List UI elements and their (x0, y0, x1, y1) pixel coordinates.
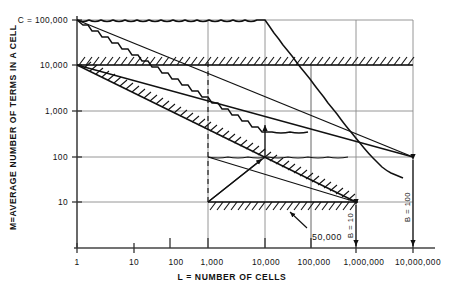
hatched-bound-diagonal (77, 62, 356, 202)
xtick-label-1: 1 (74, 257, 79, 267)
hatched-bound-10000 (77, 57, 414, 65)
xtick-label-1000: 1,000 (201, 257, 224, 267)
grid-vertical (208, 20, 413, 248)
x-axis-title: L = NUMBER OF CELLS (178, 272, 287, 282)
chart-figure: C = 100,000 10,000 1,000 100 10 1 10 100… (0, 0, 455, 287)
xtick-label-100000: 100,000 (297, 257, 330, 267)
plot-arrows (208, 125, 265, 202)
ytick-label-100: 100 (53, 152, 68, 162)
xtick-label-1000000: 1,000,000 (344, 257, 385, 267)
y-axis-title: M=AVERAGE NUMBER OF TERMS IN A CELL (8, 24, 18, 230)
hatched-floor-10 (208, 202, 358, 210)
chart-svg: C = 100,000 10,000 1,000 100 10 1 10 100… (0, 0, 455, 287)
ytick-label-10: 10 (58, 197, 68, 207)
ytick-label-100000: C = 100,000 (18, 15, 68, 25)
xtick-label-10000000: 10,000,000 (395, 257, 441, 267)
annotation-b100: B = 100 (403, 192, 412, 222)
xtick-label-100: 100 (168, 257, 183, 267)
x-tickmarks (77, 238, 413, 253)
annotation-arrow-50000 (290, 212, 307, 228)
annotation-b10: B = 10 (346, 213, 355, 238)
annotation-50000: 50,000 (312, 232, 342, 242)
line-convergence-ray-a (208, 157, 356, 202)
xtick-label-10000: 10,000 (252, 257, 280, 267)
xtick-label-10: 10 (129, 257, 139, 267)
line-upper-straight (77, 20, 413, 157)
ytick-label-10000: 10,000 (40, 60, 68, 70)
curve-c-envelope (77, 20, 403, 178)
ytick-label-1000: 1,000 (45, 106, 68, 116)
axes (74, 16, 435, 248)
